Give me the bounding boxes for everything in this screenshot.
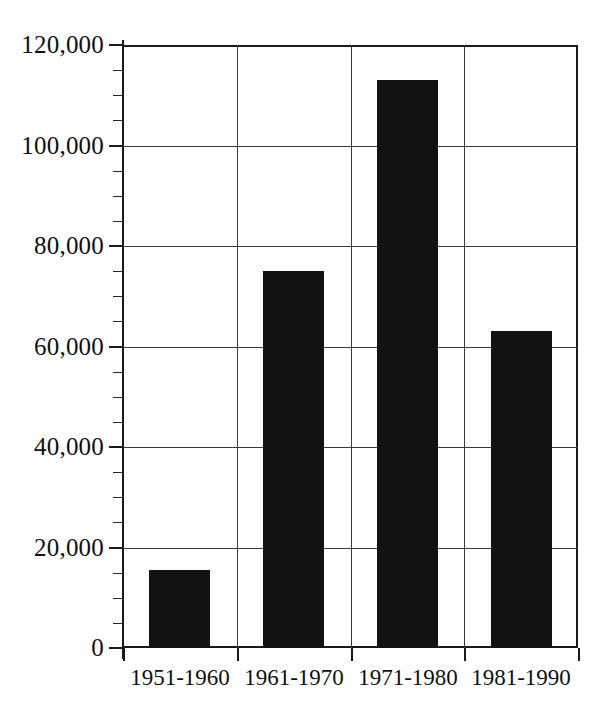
y-axis-minor-tick bbox=[113, 497, 123, 498]
y-axis-minor-tick bbox=[113, 120, 123, 121]
y-axis-major-tick bbox=[109, 647, 123, 649]
x-axis-tick bbox=[351, 648, 353, 661]
x-axis-tick-label: 1951-1960 bbox=[123, 666, 237, 689]
y-axis-minor-tick bbox=[113, 472, 123, 473]
x-axis-tick bbox=[464, 648, 466, 661]
y-axis-major-tick bbox=[109, 446, 123, 448]
column-separator bbox=[237, 45, 238, 648]
y-axis-minor-tick bbox=[113, 271, 123, 272]
y-axis-minor-tick bbox=[113, 321, 123, 322]
y-axis-major-tick bbox=[109, 145, 123, 147]
y-axis-tick-label: 40,000 bbox=[1, 434, 104, 459]
bar bbox=[149, 570, 210, 648]
y-axis-minor-tick bbox=[113, 196, 123, 197]
y-axis-minor-tick bbox=[113, 623, 123, 624]
x-axis-tick bbox=[578, 648, 580, 661]
bar-chart-figure: 020,00040,00060,00080,000100,000120,000 … bbox=[0, 0, 611, 726]
column-separator bbox=[351, 45, 352, 648]
x-axis-tick-label: 1961-1970 bbox=[237, 666, 351, 689]
y-axis-minor-tick bbox=[113, 221, 123, 222]
y-axis-minor-tick bbox=[113, 296, 123, 297]
y-axis-tick-label: 0 bbox=[1, 635, 104, 660]
y-axis-minor-tick bbox=[113, 95, 123, 96]
column-separator bbox=[464, 45, 465, 648]
x-axis-tick bbox=[123, 648, 125, 661]
x-axis-tick-label: 1981-1990 bbox=[464, 666, 578, 689]
y-axis-minor-tick bbox=[113, 397, 123, 398]
x-axis-tick bbox=[237, 648, 239, 661]
bar bbox=[491, 331, 552, 648]
y-axis-tick-label: 60,000 bbox=[1, 334, 104, 359]
y-axis-tick-label: 20,000 bbox=[1, 535, 104, 560]
bar bbox=[377, 80, 438, 648]
y-axis-minor-tick bbox=[113, 171, 123, 172]
y-axis-major-tick bbox=[109, 547, 123, 549]
y-axis-minor-tick bbox=[113, 70, 123, 71]
y-axis-minor-tick bbox=[113, 522, 123, 523]
y-axis-major-tick bbox=[109, 44, 123, 46]
y-axis-major-tick bbox=[109, 346, 123, 348]
y-axis-minor-tick bbox=[113, 372, 123, 373]
x-axis-tick-label: 1971-1980 bbox=[351, 666, 465, 689]
y-axis-tick-label: 100,000 bbox=[1, 133, 104, 158]
y-axis-minor-tick bbox=[113, 573, 123, 574]
bar bbox=[263, 271, 324, 648]
y-axis-tick-label: 120,000 bbox=[1, 32, 104, 57]
y-axis-minor-tick bbox=[113, 422, 123, 423]
y-axis-tick-label: 80,000 bbox=[1, 233, 104, 258]
y-axis-minor-tick bbox=[113, 598, 123, 599]
y-axis-major-tick bbox=[109, 245, 123, 247]
